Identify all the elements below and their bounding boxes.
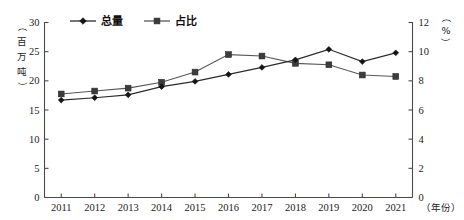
left-axis-unit-label-char: （ bbox=[17, 22, 28, 32]
right-axis-tick-label: 6 bbox=[419, 105, 424, 116]
x-axis-tick-label: 2013 bbox=[118, 202, 139, 213]
left-axis-tick-label: 20 bbox=[29, 75, 40, 86]
series-share-point bbox=[359, 72, 365, 78]
line-chart-canvas: 0510152025300246810122011201220132014201… bbox=[0, 0, 464, 220]
series-share-point bbox=[92, 88, 98, 94]
series-total-point bbox=[259, 65, 265, 71]
series-share-point bbox=[259, 53, 265, 59]
series-share-point bbox=[326, 62, 332, 68]
chart-figure: 0510152025300246810122011201220132014201… bbox=[0, 0, 464, 220]
x-axis-tick-label: 2011 bbox=[51, 202, 72, 213]
x-axis-tick-label: 2021 bbox=[385, 202, 406, 213]
legend-marker-square bbox=[154, 18, 160, 24]
series-total-point bbox=[226, 72, 232, 78]
x-axis-tick-label: 2019 bbox=[318, 202, 339, 213]
right-axis-tick-label: 2 bbox=[419, 163, 424, 174]
x-axis-unit-label: （年份） bbox=[421, 202, 461, 213]
left-axis-tick-label: 15 bbox=[29, 105, 40, 116]
legend-label-1: 总量 bbox=[101, 14, 123, 28]
x-axis-tick-label: 2015 bbox=[185, 202, 206, 213]
series-share-point bbox=[125, 85, 131, 91]
x-axis-tick-label: 2016 bbox=[218, 202, 239, 213]
series-total-point bbox=[125, 92, 131, 98]
right-axis-tick-label: 8 bbox=[419, 75, 424, 86]
x-axis-tick-label: 2018 bbox=[285, 202, 306, 213]
left-axis-tick-label: 5 bbox=[34, 163, 39, 174]
left-axis-tick-label: 30 bbox=[29, 17, 40, 28]
right-axis-tick-label: 10 bbox=[419, 46, 430, 57]
right-axis-tick-label: 4 bbox=[419, 134, 425, 145]
series-share-point bbox=[58, 91, 64, 97]
series-total-point bbox=[192, 79, 198, 85]
legend-marker-diamond bbox=[80, 18, 87, 25]
series-share-point bbox=[226, 52, 232, 58]
series-share-point bbox=[393, 74, 399, 80]
x-axis-tick-label: 2014 bbox=[151, 202, 173, 213]
right-axis-unit-label: % bbox=[441, 25, 450, 36]
series-share-point bbox=[192, 69, 198, 75]
left-axis-unit-label-char: 百 bbox=[17, 36, 27, 47]
right-axis-tick-label: 12 bbox=[419, 17, 430, 28]
left-axis-unit-label-char: ） bbox=[17, 82, 28, 92]
series-total-point bbox=[58, 97, 64, 103]
left-axis-unit-label-char: 万 bbox=[17, 51, 27, 62]
series-total-point bbox=[92, 95, 98, 101]
series-total-point bbox=[326, 46, 332, 52]
right-axis-unit-paren-close: ） bbox=[440, 38, 451, 48]
series-total-point bbox=[393, 50, 399, 56]
left-axis-tick-label: 0 bbox=[34, 192, 39, 203]
legend-label-2: 占比 bbox=[175, 14, 197, 28]
right-axis-unit-paren-open: （ bbox=[441, 13, 452, 23]
x-axis-tick-label: 2012 bbox=[84, 202, 105, 213]
x-axis-tick-label: 2020 bbox=[352, 202, 373, 213]
left-axis-unit-label-char: 吨 bbox=[17, 66, 27, 77]
left-axis-tick-label: 10 bbox=[29, 134, 40, 145]
x-axis-tick-label: 2017 bbox=[251, 202, 272, 213]
left-axis-tick-label: 25 bbox=[29, 46, 40, 57]
series-total-point bbox=[359, 59, 365, 65]
